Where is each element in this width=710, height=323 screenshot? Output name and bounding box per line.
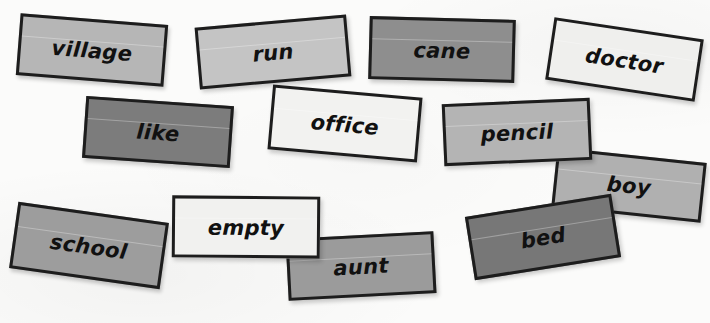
word-card[interactable]: empty xyxy=(172,195,321,258)
word-card-label: empty xyxy=(208,216,285,241)
word-card[interactable]: like xyxy=(82,96,234,168)
word-card[interactable]: village xyxy=(16,13,168,86)
word-card-label: pencil xyxy=(480,119,554,146)
word-card[interactable]: office xyxy=(267,85,422,163)
word-card-label: village xyxy=(51,36,133,66)
word-card[interactable]: cane xyxy=(368,16,516,83)
word-card[interactable]: school xyxy=(9,202,169,290)
word-card-label: doctor xyxy=(584,43,665,78)
word-card-label: school xyxy=(49,229,129,264)
word-card[interactable]: pencil xyxy=(442,98,593,166)
word-card-label: run xyxy=(252,39,295,66)
word-card-label: bed xyxy=(519,223,567,254)
word-card-scene: villageruncanedoctorlikeofficepencilboys… xyxy=(0,0,710,323)
word-card-label: like xyxy=(136,120,181,147)
word-card-label: cane xyxy=(413,38,471,63)
word-card-label: office xyxy=(310,110,380,140)
word-card-label: aunt xyxy=(333,254,389,281)
word-card[interactable]: bed xyxy=(465,194,621,280)
word-card[interactable]: run xyxy=(195,14,352,89)
word-card-label: boy xyxy=(606,172,652,200)
word-card[interactable]: doctor xyxy=(545,17,704,102)
